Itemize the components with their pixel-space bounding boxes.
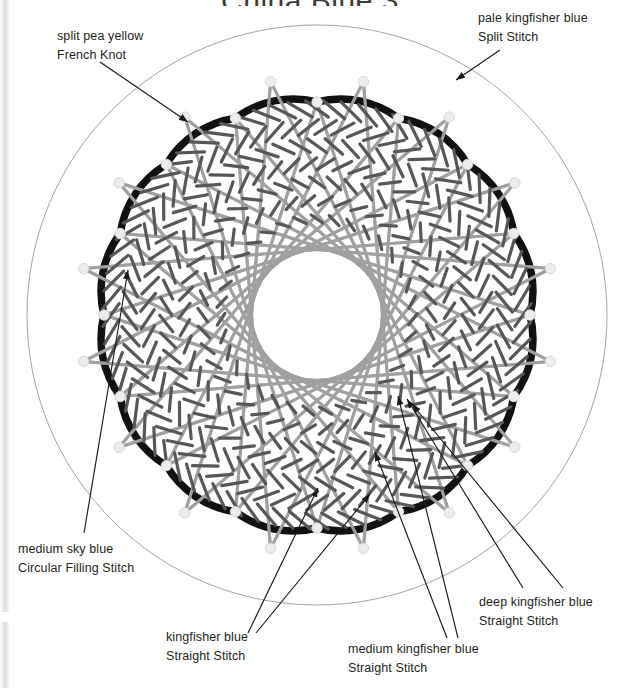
label-stitch-name: Straight Stitch [479,612,593,631]
label-thread-name: medium sky blue [18,540,134,559]
leader-line [456,50,500,80]
straight-stitch-mark [458,203,482,211]
straight-stitch-mark [449,198,450,221]
straight-stitch-mark [420,223,421,242]
straight-stitch-mark [267,419,283,423]
straight-stitch-mark [194,413,214,418]
french-knot [358,76,368,86]
straight-stitch-mark [496,341,506,364]
straight-stitch-mark [415,417,420,437]
straight-stitch-mark [208,147,217,171]
label-stitch-name: Circular Filling Stitch [18,559,134,578]
french-knot [161,159,171,169]
straight-stitch-mark [252,413,268,415]
straight-stitch-mark [134,399,137,427]
straight-stitch-mark [164,219,186,228]
straight-stitch-mark [271,202,280,216]
straight-stitch-mark [198,308,207,321]
straight-stitch-mark [462,315,473,333]
french-knot [312,523,322,533]
embroidery-pattern-diagram [0,0,620,688]
straight-stitch-mark [401,494,429,497]
straight-stitch-mark [153,208,155,234]
french-knot [230,507,240,517]
straight-stitch-mark [142,277,159,293]
label-thread-name: kingfisher blue [166,628,248,647]
straight-stitch-mark [247,242,261,243]
label-thread-name: medium kingfisher blue [348,640,479,659]
straight-stitch-mark [182,272,197,283]
straight-stitch-mark [425,454,433,478]
straight-stitch-mark [222,481,247,485]
straight-stitch-mark [379,236,382,250]
straight-stitch-mark [214,192,219,212]
french-knot [393,113,403,123]
guide-circle-ring [27,25,607,605]
label-deep-kingfisher-blue-straight-stitch: deep kingfisher blue Straight Stitch [479,593,593,631]
straight-stitch-mark [300,460,318,471]
label-medium-kingfisher-blue-straight-stitch: medium kingfisher blue Straight Stitch [348,640,479,678]
straight-stitch-mark [154,428,155,456]
label-stitch-name: Straight Stitch [348,659,479,678]
straight-stitch-mark [349,166,369,173]
french-knot [114,442,124,452]
french-knot [115,228,125,238]
straight-stitch-mark [377,149,389,169]
straight-stitch-mark [329,216,339,226]
straight-stitch-mark [336,405,349,410]
straight-stitch-mark [132,379,154,393]
label-stitch-name: French Knot [57,46,143,65]
straight-stitch-mark [232,229,234,245]
straight-stitch-mark [448,378,450,399]
straight-stitch-mark [380,426,399,427]
straight-stitch-mark [379,140,404,145]
straight-stitch-mark [416,487,444,488]
straight-stitch-mark [210,175,233,176]
straight-stitch-mark [459,347,466,367]
straight-stitch-mark [317,159,335,170]
french-knot [265,76,275,86]
leader-line [248,488,318,633]
straight-stitch-mark [430,477,458,478]
straight-stitch-mark [173,181,175,207]
scanned-page-edge [0,0,9,688]
label-stitch-name: Split Stitch [478,28,588,47]
straight-stitch-mark [394,149,419,152]
leader-line [100,62,188,122]
french-knot [78,263,88,273]
french-knot [545,263,555,273]
straight-stitch-mark [308,139,327,153]
straight-stitch-mark [268,470,283,488]
straight-stitch-mark [271,494,294,505]
straight-stitch-mark [436,252,440,270]
straight-stitch-mark [225,391,241,394]
french-knot [545,356,555,366]
label-thread-name: split pea yellow [57,27,143,46]
french-knot [114,178,124,188]
straight-stitch-mark [352,400,366,402]
straight-stitch-mark [332,477,353,488]
straight-stitch-mark [436,185,440,208]
straight-stitch-mark [436,179,461,183]
french-knot [510,442,520,452]
straight-stitch-mark [265,457,285,464]
straight-stitch-mark [379,466,402,470]
straight-stitch-mark [365,433,383,436]
straight-stitch-mark [161,298,172,316]
straight-stitch-mark [496,203,499,231]
straight-stitch-mark [247,374,249,388]
french-knot [161,460,171,470]
straight-stitch-mark [234,446,255,448]
french-knot [509,391,519,401]
straight-stitch-mark [176,152,204,153]
straight-stitch-mark [147,411,171,421]
straight-stitch-mark [327,177,341,190]
straight-stitch-mark [168,263,175,283]
french-knot [444,112,454,122]
straight-stitch-mark [224,165,247,168]
straight-stitch-mark [466,226,469,249]
straight-stitch-mark [184,195,207,199]
straight-stitch-mark [380,182,401,184]
straight-stitch-mark [400,385,402,401]
straight-stitch-mark [240,156,263,161]
